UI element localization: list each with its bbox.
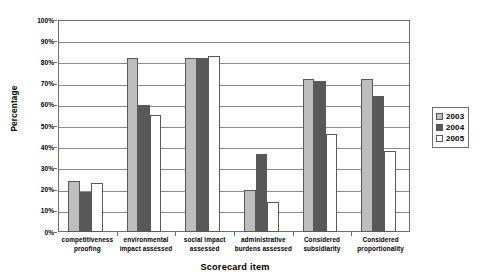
x-axis-category-label: Consideredproportionality [351,235,410,253]
y-axis-tick-label: 80% [8,59,54,66]
bar [80,192,92,232]
bars-layer [58,20,410,232]
x-axis-category-label-line: environmental [117,235,176,244]
y-axis-tick-mark [54,232,57,233]
x-axis-category-label: social impactassessed [175,235,234,253]
bar [197,58,209,232]
x-axis-category-label: competitivenessproofing [58,235,117,253]
bar [150,115,162,232]
y-axis-tick-labels: 100%90%80%70%60%50%40%30%20%10%0% [4,20,54,232]
y-axis-tick-mark [54,147,57,148]
legend-item[interactable]: 2003 [436,111,464,122]
x-axis-category-label-line: burdens assessed [234,244,293,253]
x-axis-title: Scorecard item [60,262,410,272]
x-axis-category-label-line: Considered [293,235,352,244]
x-axis-category-label: Consideredsubsidiarity [293,235,352,253]
y-axis-tick-mark [54,20,57,21]
bar [361,79,373,232]
y-axis-tick-label: 20% [8,186,54,193]
y-axis-tick-mark [54,190,57,191]
y-axis-tick-mark [54,41,57,42]
x-axis-category-label-line: social impact [175,235,234,244]
legend-swatch-2005 [436,135,443,142]
y-axis-tick-label: 100% [8,17,54,24]
bar-chart: Percentage 100%90%80%70%60%50%40%30%20%1… [0,0,499,280]
x-axis-category-label-line: proportionality [351,244,410,253]
x-axis-category-labels: competitivenessproofingenvironmentalimpa… [58,235,410,259]
bar [68,181,80,232]
x-axis-category-label: environmentalimpact assessed [117,235,176,253]
x-axis-category-label-line: proofing [58,244,117,253]
y-axis-tick-mark [54,62,57,63]
bar [373,96,385,232]
y-axis-tick-mark [54,211,57,212]
y-axis-tick-mark [54,168,57,169]
bar [185,58,197,232]
y-axis-tick-label: 30% [8,165,54,172]
y-axis-tick-label: 90% [8,38,54,45]
y-axis-tick-label: 10% [8,207,54,214]
bar [208,56,220,232]
y-axis-tick-mark [54,126,57,127]
y-axis-tick-label: 40% [8,144,54,151]
legend-item-label: 2005 [446,134,464,143]
chart-legend: 200320042005 [432,107,469,148]
x-axis-category-label: administrativeburdens assessed [234,235,293,253]
x-axis-category-label-line: subsidiarity [293,244,352,253]
bar [267,202,279,232]
y-axis-tick-label: 50% [8,123,54,130]
legend-swatch-2003 [436,113,443,120]
bar [138,105,150,232]
bar [314,81,326,232]
x-axis-category-label-line: Considered [351,235,410,244]
bar [244,190,256,232]
y-axis-tick-mark [54,84,57,85]
y-axis-tick-mark [54,105,57,106]
bar [91,183,103,232]
y-axis-tick-label: 0% [8,229,54,236]
y-axis-tick-label: 70% [8,80,54,87]
x-axis-category-label-line: administrative [234,235,293,244]
legend-swatch-2004 [436,124,443,131]
bar [326,134,338,232]
bar [384,151,396,232]
legend-item-label: 2004 [446,123,464,132]
bar [256,154,268,232]
x-axis-category-label-line: competitiveness [58,235,117,244]
legend-item[interactable]: 2004 [436,122,464,133]
x-axis-category-label-line: impact assessed [117,244,176,253]
bar [303,79,315,232]
legend-item[interactable]: 2005 [436,133,464,144]
legend-item-label: 2003 [446,112,464,121]
x-axis-category-label-line: assessed [175,244,234,253]
y-axis-tick-label: 60% [8,101,54,108]
bar [127,58,139,232]
